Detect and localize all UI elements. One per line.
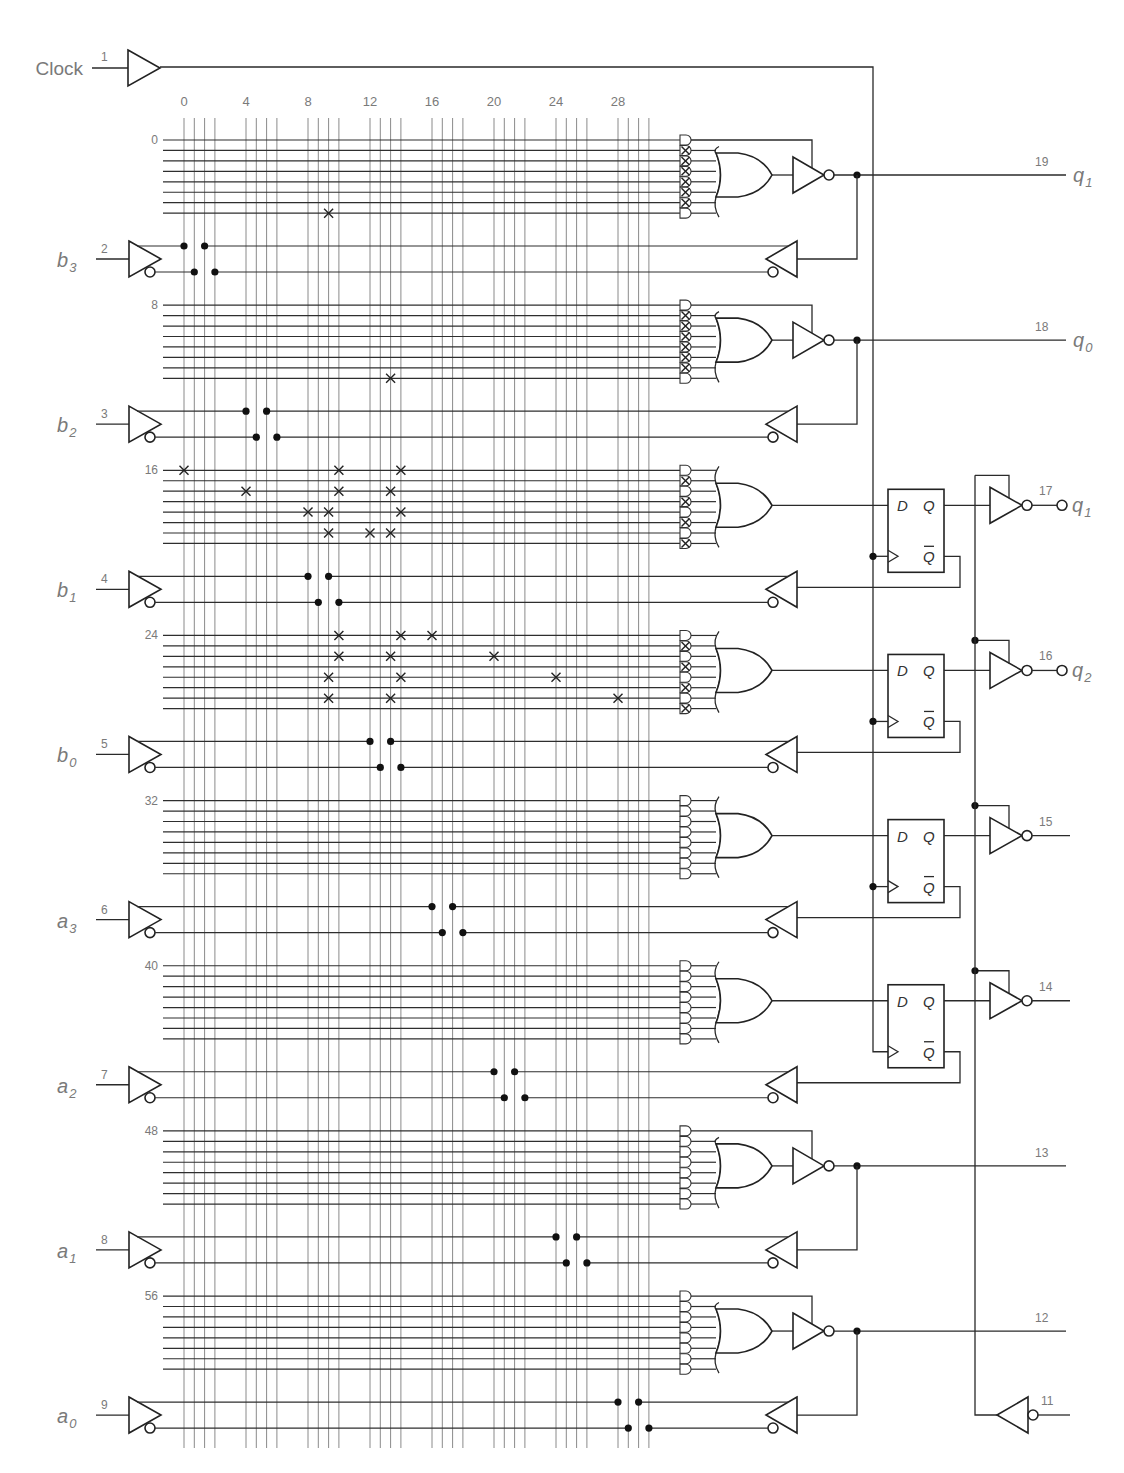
and-gate-icon (680, 507, 691, 517)
and-gate-icon (680, 465, 691, 475)
tristate-inverter-icon (793, 1148, 824, 1184)
junction-dot (201, 242, 208, 249)
input-pin-number: 8 (101, 1233, 108, 1247)
input-buffer-pin-8: a18 (57, 1232, 570, 1268)
tristate-inverter-icon (793, 322, 824, 358)
row-label: 8 (151, 298, 158, 312)
inversion-bubble-icon (824, 1161, 834, 1171)
and-gate-icon (680, 1322, 691, 1332)
ff-q-label: Q (923, 828, 935, 845)
input-buffer-pin-7: a27 (57, 1067, 508, 1103)
junction-dot (263, 408, 270, 415)
output-pin-number: 17 (1039, 484, 1053, 498)
pal-schematic: 0481216202428Clock10816243240485619q118q… (0, 0, 1124, 1473)
input-pin-number: 3 (101, 407, 108, 421)
and-gate-icon (680, 300, 691, 310)
input-signal-label-subscript: 1 (69, 590, 76, 605)
output-pin-number: 18 (1035, 320, 1049, 334)
and-gate-icon (680, 1147, 691, 1157)
junction-dot (869, 883, 876, 890)
inversion-bubble-icon (768, 1423, 778, 1433)
and-gate-icon (680, 1126, 691, 1136)
output-signal-label-subscript: 1 (1085, 175, 1092, 190)
output-enable-input: 11 (975, 475, 1070, 1433)
junction-dot (614, 1398, 621, 1405)
inversion-bubble-icon (145, 597, 155, 607)
tristate-inverter-icon (990, 818, 1022, 854)
oe-pin-number: 11 (1041, 1394, 1054, 1408)
junction-dot (625, 1424, 632, 1431)
input-pin-number: 2 (101, 242, 108, 256)
output-pin-terminal-icon (1057, 500, 1067, 510)
junction-dot (511, 1068, 518, 1075)
output-signal-label-subscript: 0 (1085, 340, 1093, 355)
output-enable-line (975, 475, 997, 1415)
input-signal-label: a0 (57, 1405, 77, 1431)
feedback-wire (797, 1331, 857, 1415)
clock-pin-number: 1 (101, 50, 108, 64)
oe-inverter-icon (997, 1397, 1028, 1433)
row-label: 24 (145, 628, 159, 642)
output-pin-number: 16 (1039, 649, 1053, 663)
junction-dot (869, 718, 876, 725)
and-gate-icon (680, 1199, 691, 1209)
inversion-bubble-icon (1022, 665, 1032, 675)
input-buffer-pin-5: b05 (57, 736, 384, 772)
column-label: 4 (242, 94, 249, 109)
inversion-bubble-icon (768, 1093, 778, 1103)
and-gate-icon (680, 848, 691, 858)
and-gate-icon (680, 1364, 691, 1374)
column-label: 20 (487, 94, 501, 109)
feedback-wire (797, 175, 857, 259)
junction-dot (304, 573, 311, 580)
input-signal-label-subscript: 2 (68, 1086, 77, 1101)
junction-dot (552, 1233, 559, 1240)
and-gate-icon (680, 1034, 691, 1044)
row-label: 32 (145, 794, 159, 808)
and-gate-icon (680, 971, 691, 981)
and-gate-icon (680, 373, 691, 383)
output-macrocell-pin-15: DQQ15 (715, 797, 1070, 918)
and-gate-icon (680, 961, 691, 971)
junction-dot (315, 599, 322, 606)
or-gate-icon (716, 1309, 772, 1353)
feedback-buffer-7 (635, 1397, 797, 1433)
tristate-inverter-icon (990, 983, 1022, 1019)
and-gate-icon (680, 1312, 691, 1322)
input-signal-label: b2 (57, 414, 77, 440)
and-gate-icon (680, 1013, 691, 1023)
inversion-bubble-icon (824, 1326, 834, 1336)
feedback-buffer-3 (387, 736, 797, 772)
and-gate-icon (680, 693, 691, 703)
junction-dot (490, 1068, 497, 1075)
column-labels: 0481216202428 (180, 94, 625, 109)
input-signal-label-letter: a (57, 1075, 68, 1097)
and-gate-icon (680, 1189, 691, 1199)
input-signal-label-letter: b (57, 579, 68, 601)
ff-d-label: D (897, 828, 908, 845)
input-pin-number: 7 (101, 1068, 108, 1082)
output-signal-label-letter: q (1072, 659, 1083, 681)
and-gate-icon (680, 208, 691, 218)
input-signal-label-subscript: 0 (69, 1416, 77, 1431)
junction-dot (191, 268, 198, 275)
inversion-bubble-icon (145, 762, 155, 772)
clock-buffer-icon (128, 50, 160, 86)
ff-qbar-label: Q (923, 548, 935, 565)
input-signal-label: a1 (57, 1240, 76, 1266)
junction-dot (325, 573, 332, 580)
or-gate-icon (716, 648, 772, 692)
feedback-wire (797, 1166, 857, 1250)
junction-dot (273, 434, 280, 441)
input-buffer-pin-2: b32 (57, 241, 198, 277)
tristate-inverter-icon (793, 157, 824, 193)
and-gate-icon (680, 651, 691, 661)
input-signal-label-subscript: 2 (68, 425, 77, 440)
ff-d-label: D (897, 662, 908, 679)
ff-q-label: Q (923, 993, 935, 1010)
input-signal-label: b0 (57, 744, 77, 770)
ff-qbar-label: Q (923, 1044, 935, 1061)
input-signal-label-subscript: 0 (69, 755, 77, 770)
inversion-bubble-icon (824, 170, 834, 180)
column-label: 8 (304, 94, 311, 109)
